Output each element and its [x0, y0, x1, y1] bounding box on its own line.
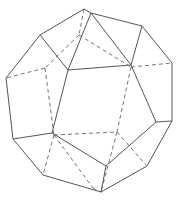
polyhedron-wireframe: [0, 0, 182, 210]
visible-edge: [6, 35, 40, 78]
visible-edge: [13, 139, 43, 175]
visible-edge: [147, 121, 172, 166]
visible-edge: [68, 13, 91, 70]
visible-edge: [6, 78, 13, 139]
visible-edge: [101, 166, 147, 192]
polyhedron-diagram: [0, 0, 182, 210]
visible-edge: [13, 133, 52, 139]
visible-edge: [106, 122, 156, 166]
hidden-edge: [43, 135, 54, 175]
hidden-edge: [117, 67, 131, 132]
visible-edge: [142, 26, 172, 63]
visible-edge: [156, 121, 172, 122]
visible-edge: [131, 26, 142, 65]
visible-edge: [52, 133, 106, 166]
visible-edge: [40, 35, 68, 70]
hidden-edge: [101, 132, 117, 192]
hidden-edge: [6, 68, 45, 78]
hidden-edge: [79, 35, 131, 67]
visible-edge: [43, 175, 101, 192]
visible-edge: [68, 65, 131, 70]
hidden-edge: [131, 63, 172, 67]
hidden-edge: [54, 132, 117, 135]
hidden-edge: [117, 132, 146, 165]
visible-edge: [101, 166, 106, 192]
visible-edge: [52, 70, 68, 133]
visible-edge: [91, 13, 142, 26]
visible-edge: [131, 65, 156, 122]
visible-edge: [84, 9, 91, 13]
hidden-edge: [45, 68, 54, 135]
visible-edge: [40, 9, 84, 35]
visible-edge: [91, 13, 131, 65]
